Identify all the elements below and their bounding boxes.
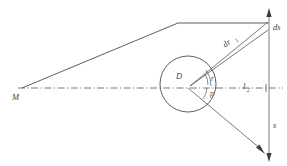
circle-D: [160, 56, 216, 112]
diagram-canvas: Geometric ray diagram with source M, cir…: [0, 0, 287, 166]
ray-dr-to-screen: [190, 30, 268, 86]
ray-to-screen-bottom: [188, 88, 262, 150]
label-M: M: [11, 92, 20, 102]
label-axis-l: l: [243, 81, 246, 91]
screen-arrow-top: [266, 8, 271, 17]
ray-diagram-svg: Geometric ray diagram with source M, cir…: [0, 0, 287, 166]
label-s: s: [273, 120, 277, 130]
label-dr-subscript: 1: [234, 37, 240, 44]
screen-arrow-bottom: [266, 153, 271, 162]
label-D: D: [175, 71, 183, 81]
ray-to-ds-upper: [190, 22, 268, 86]
label-dr: dr: [220, 36, 233, 49]
angle-arc-r: [205, 74, 208, 85]
angle-arc-p: [203, 88, 207, 99]
label-angle-r: r: [211, 75, 214, 83]
label-angle-p: p: [209, 90, 214, 98]
label-ds: ds: [273, 22, 281, 32]
label-axis-group: l 2: [243, 81, 250, 93]
label-axis-subscript: 2: [247, 87, 250, 93]
